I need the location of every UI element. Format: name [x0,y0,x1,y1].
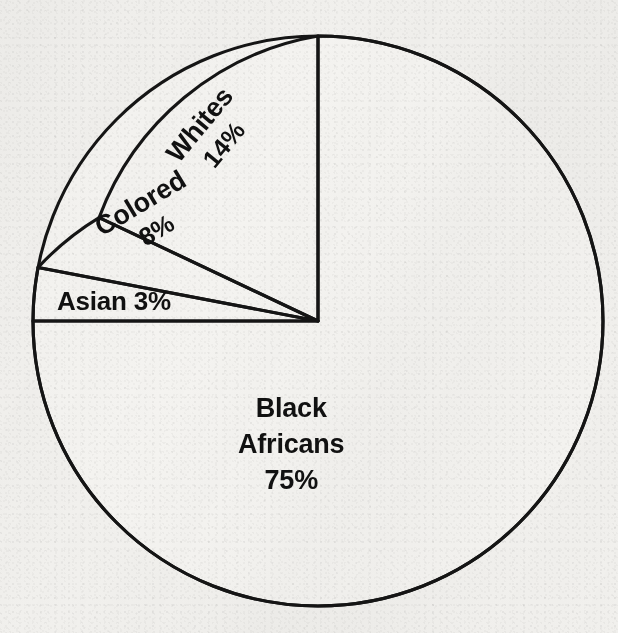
pie-label-asian-text: Asian 3% [57,287,171,316]
pie-label-asian: Asian 3% [57,287,171,316]
pie-label-black-africans-line2: Africans [238,427,344,463]
pie-label-black-africans: Black Africans 75% [238,391,344,499]
pie-label-black-africans-line1: Black [238,391,344,427]
pie-chart-canvas [0,0,618,633]
pie-chart-figure: Whites 14% Colored 8% Asian 3% Black Afr… [0,0,618,633]
pie-label-black-africans-value: 75% [238,463,344,499]
